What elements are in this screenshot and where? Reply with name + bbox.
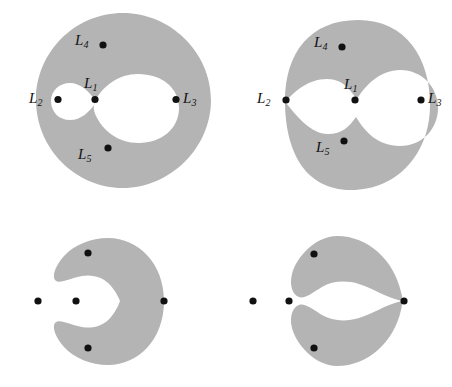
region-fill-bottom-left [54,238,164,365]
label-l2: L2 [29,91,43,108]
region-fill-lower-crescent [291,302,402,366]
point-l4 [84,249,91,256]
label-l1: L1 [84,76,98,93]
point-l1 [91,96,98,103]
point-l3 [417,96,424,103]
point-l2 [282,96,289,103]
panel-bottom-left: L1 L2 L3 L4 L5 [0,200,226,387]
point-l5 [84,344,91,351]
point-l2 [34,297,41,304]
point-l3 [400,297,407,304]
point-l3 [160,297,167,304]
label-l3: L3 [183,91,197,108]
panel-bottom-left-graphic [0,200,226,387]
label-l4: L4 [314,35,328,52]
point-l1 [72,297,79,304]
point-l5 [310,344,317,351]
panel-top-right: L1 L2 L3 L4 L5 [226,0,452,200]
point-l1 [351,96,358,103]
point-l4 [338,43,345,50]
point-l4 [99,41,106,48]
point-l4 [310,250,317,257]
point-l2 [249,297,256,304]
panel-bottom-right-graphic [226,200,452,387]
point-l3 [172,96,179,103]
label-l3: L3 [428,91,442,108]
label-l2: L2 [257,91,271,108]
label-l4: L4 [75,33,89,50]
region-fill-top-right [285,20,438,190]
point-l5 [104,144,111,151]
point-l2 [54,96,61,103]
panel-top-left: L1 L2 L3 L4 L5 [0,0,226,200]
topology-deformation-figure: L1 L2 L3 L4 L5 L1 L2 L3 [0,0,452,387]
region-fill-upper-crescent [291,236,402,300]
point-l5 [340,137,347,144]
point-l1 [285,297,292,304]
panel-bottom-right: L1 L2 L3 L4 L5 [226,200,452,387]
label-l5: L5 [316,140,330,157]
label-l1: L1 [344,77,358,94]
label-l5: L5 [78,147,92,164]
